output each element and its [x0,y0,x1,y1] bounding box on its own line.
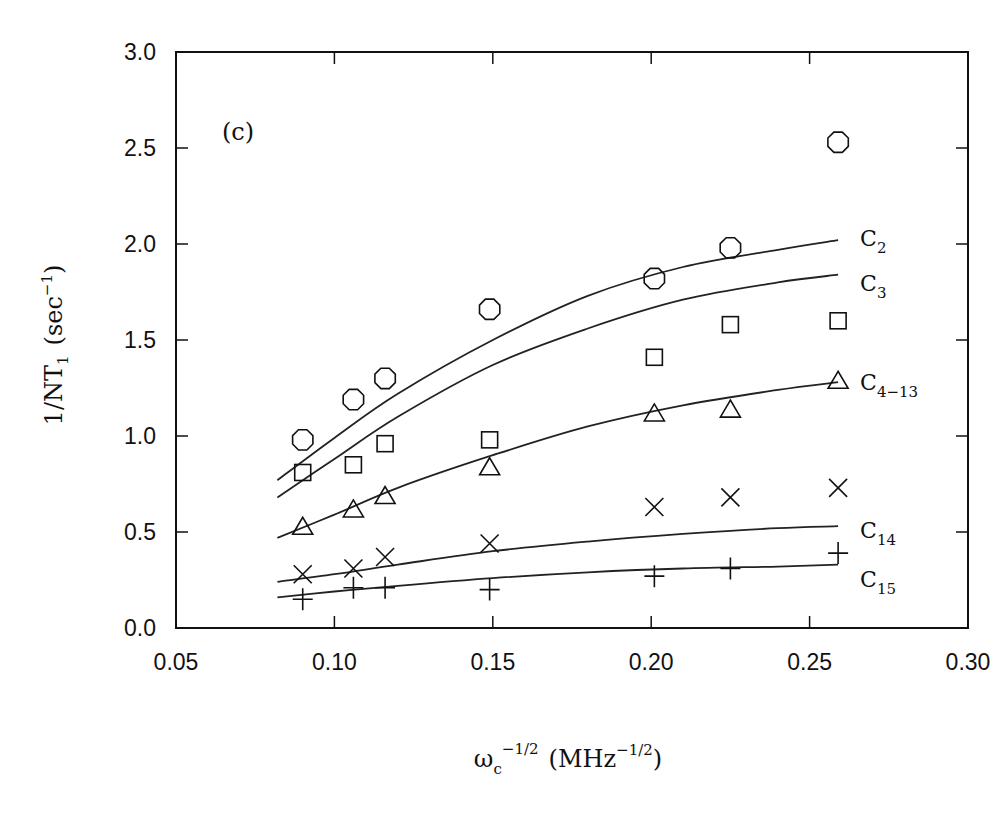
series-c4-13 [293,371,848,534]
octagon-marker [480,299,500,319]
x-tick-label: 0.05 [154,649,199,675]
plus-marker [480,579,500,601]
svg-text:ωc−1/2(MHz−1/2): ωc−1/2(MHz−1/2) [474,740,662,778]
series-label-c3: C3 [860,271,886,302]
octagon-marker [293,430,313,450]
y-tick-label: 0.0 [124,615,156,641]
data-markers [293,132,849,610]
square-marker [830,313,846,329]
octagon-marker [720,238,740,258]
octagon-marker [828,132,848,152]
square-marker [482,432,498,448]
triangle-marker [720,400,740,417]
x-axis-label: ωc−1/2(MHz−1/2) [474,740,662,778]
series-label-c14: C14 [860,518,896,549]
fit-curves [277,240,838,597]
x-tick-label: 0.20 [629,649,674,675]
y-tick-label: 3.0 [124,39,156,65]
triangle-marker [828,371,848,388]
x-marker [645,498,663,516]
x-tick-label: 0.25 [787,649,832,675]
chart: 0.050.100.150.200.250.30 0.00.51.01.52.0… [0,0,999,817]
series-c15 [293,542,848,610]
x-marker [721,488,739,506]
series-label-c15: C15 [860,567,896,598]
y-tick-label: 1.5 [124,327,156,353]
svg-text:1/NT1(sec−1): 1/NT1(sec−1) [38,265,72,426]
plus-marker [375,577,395,599]
octagon-marker [644,268,664,288]
y-tick-label: 1.0 [124,423,156,449]
square-marker [646,349,662,365]
x-tick-label: 0.10 [312,649,357,675]
y-tick-label: 0.5 [124,519,156,545]
triangle-marker [293,517,313,534]
triangle-marker [480,458,500,475]
plus-marker [828,542,848,564]
series-label-c4-13: C4−13 [860,370,918,401]
square-marker [295,464,311,480]
series-label-c2: C2 [860,226,886,257]
plus-marker [343,577,363,599]
square-marker [377,436,393,452]
x-marker [829,479,847,497]
x-marker [481,535,499,553]
octagon-marker [343,389,363,409]
plot-frame [176,52,968,628]
series-c3 [295,313,846,481]
plus-marker [720,557,740,579]
panel-label: (c) [222,118,254,146]
x-tick-label: 0.30 [946,649,991,675]
x-marker [344,559,362,577]
square-marker [722,317,738,333]
octagon-marker [375,368,395,388]
x-marker [376,548,394,566]
y-axis-label: 1/NT1(sec−1) [38,265,72,426]
series-labels: C2C3C4−13C14C15 [860,226,918,597]
y-tick-label: 2.0 [124,231,156,257]
square-marker [345,457,361,473]
x-tick-label: 0.15 [470,649,515,675]
series-c2 [293,132,849,450]
plus-marker [293,588,313,610]
x-marker [294,565,312,583]
fit-curve-c2 [277,240,838,480]
y-tick-label: 2.5 [124,135,156,161]
